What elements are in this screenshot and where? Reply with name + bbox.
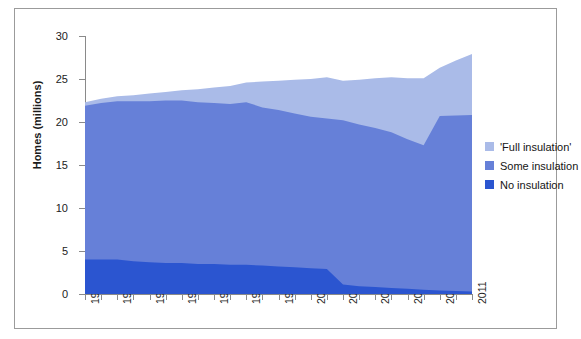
x-tick	[391, 295, 392, 300]
x-tick	[408, 295, 409, 300]
x-tick	[246, 295, 247, 300]
x-tick	[182, 295, 183, 300]
x-tick	[262, 295, 263, 300]
legend-label: No insulation	[500, 179, 564, 191]
x-tick	[150, 295, 151, 300]
x-tick	[359, 295, 360, 300]
x-tick	[101, 295, 102, 300]
y-tick-label: 5	[28, 246, 68, 256]
chart-legend: 'Full insulation'Some insulationNo insul…	[485, 137, 581, 194]
x-tick	[85, 295, 86, 300]
legend-item[interactable]: No insulation	[485, 175, 581, 194]
plot-area: 051015202530 198719891991199319951997199…	[71, 28, 472, 298]
legend-label: 'Full insulation'	[500, 141, 571, 153]
legend-swatch-icon	[485, 161, 494, 170]
stacked-area-plot	[85, 36, 472, 294]
x-tick	[343, 295, 344, 300]
legend-item[interactable]: Some insulation	[485, 156, 581, 175]
x-tick	[311, 295, 312, 300]
x-tick	[133, 295, 134, 300]
y-tick-label: 20	[28, 117, 68, 127]
legend-swatch-icon	[485, 180, 494, 189]
x-tick	[472, 295, 473, 300]
legend-swatch-icon	[485, 142, 494, 151]
x-tick	[230, 295, 231, 300]
x-tick	[214, 295, 215, 300]
y-tick-label: 15	[28, 160, 68, 170]
x-tick	[117, 295, 118, 300]
x-tick-label: 2011	[476, 281, 488, 304]
x-tick	[327, 295, 328, 300]
legend-label: Some insulation	[500, 160, 578, 172]
x-tick	[456, 295, 457, 300]
y-tick-label: 25	[28, 74, 68, 84]
legend-item[interactable]: 'Full insulation'	[485, 137, 581, 156]
x-tick	[375, 295, 376, 300]
y-tick-label: 30	[28, 31, 68, 41]
x-tick	[198, 295, 199, 300]
x-tick	[279, 295, 280, 300]
chart-frame: Homes (millions) 051015202530 1987198919…	[14, 8, 557, 329]
x-tick	[440, 295, 441, 300]
y-tick-label: 10	[28, 203, 68, 213]
y-tick-label: 0	[28, 289, 68, 299]
